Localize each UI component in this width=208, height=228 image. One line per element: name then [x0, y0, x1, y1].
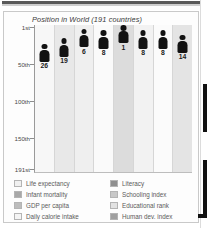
figure-head [160, 30, 166, 36]
legend-item[interactable]: Schooling index [110, 189, 200, 200]
figure-value-label: 8 [137, 49, 150, 57]
legend-swatch [14, 191, 22, 198]
legend: Life expectancyInfant mortalityGDP per c… [4, 178, 200, 222]
scrollbar-thumb-upper[interactable] [203, 84, 207, 132]
human-figure-icon: 6 [77, 29, 90, 56]
chart-column[interactable]: 8 [94, 25, 114, 172]
figure-body [119, 31, 128, 43]
chart-column[interactable]: 1 [114, 25, 134, 172]
human-figure-icon: 19 [58, 38, 71, 65]
y-axis: 1st50th100th150th191st [4, 25, 34, 173]
figure-value-label: 19 [58, 57, 71, 65]
figure-body [178, 41, 187, 53]
legend-swatch [110, 180, 118, 187]
figure-value-label: 26 [38, 62, 51, 70]
legend-label: Life expectancy [26, 180, 70, 187]
legend-swatch [14, 213, 22, 220]
legend-label: Schooling index [122, 191, 166, 198]
scrollbar-thumb-lower[interactable] [203, 160, 207, 218]
legend-column-left: Life expectancyInfant mortalityGDP per c… [4, 178, 104, 222]
legend-swatch [110, 191, 118, 198]
plot-area: 26196818814 [34, 25, 192, 173]
figure-value-label: 8 [156, 49, 169, 57]
chart-column[interactable]: 8 [154, 25, 174, 172]
human-figure-icon: 1 [117, 25, 130, 52]
figure-body [138, 37, 147, 49]
human-figure-icon: 8 [137, 30, 150, 57]
legend-label: Educational rank [122, 202, 169, 209]
figure-head [180, 35, 186, 41]
legend-item[interactable]: Literacy [110, 178, 200, 189]
figure-body [99, 37, 108, 49]
legend-item[interactable]: Life expectancy [14, 178, 104, 189]
legend-item[interactable]: Human dev. index [110, 211, 200, 222]
legend-label: GDP per capita [26, 202, 69, 209]
legend-label: Literacy [122, 180, 144, 187]
chart-column[interactable]: 6 [75, 25, 95, 172]
y-tick-label: 100th [15, 97, 30, 104]
chart-column[interactable]: 8 [134, 25, 154, 172]
y-tick-label: 191st [15, 166, 30, 173]
figure-body [158, 37, 167, 49]
figure-value-label: 6 [77, 48, 90, 56]
legend-item[interactable]: GDP per capita [14, 200, 104, 211]
window-top-divider-light [2, 4, 202, 6]
chart-column[interactable]: 19 [55, 25, 75, 172]
figure-head [81, 29, 87, 35]
figure-value-label: 1 [117, 44, 130, 52]
figure-head [101, 30, 107, 36]
y-tick-label: 50th [18, 60, 30, 67]
chart-column[interactable]: 14 [173, 25, 192, 172]
figure-body [79, 35, 88, 47]
figure-body [59, 45, 68, 57]
figure-value-label: 8 [97, 49, 110, 57]
figure-head [61, 38, 67, 44]
figure-value-label: 14 [176, 53, 189, 61]
chart-column[interactable]: 26 [35, 25, 55, 172]
legend-label: Infant mortality [26, 191, 67, 198]
human-figure-icon: 14 [176, 35, 189, 62]
chart-title: Position in World (191 countries) [32, 15, 142, 24]
plot-wrapper: 1st50th100th150th191st 26196818814 [4, 25, 200, 173]
scrollbar-corner[interactable] [198, 214, 207, 218]
human-figure-icon: 8 [97, 30, 110, 57]
legend-label: Daily calorie intake [26, 213, 79, 220]
legend-item[interactable]: Educational rank [110, 200, 200, 211]
scrollbar-separator [200, 0, 201, 228]
figure-head [140, 30, 146, 36]
figure-head [121, 25, 127, 31]
human-figure-icon: 8 [156, 30, 169, 57]
human-figure-icon: 26 [38, 44, 51, 71]
legend-swatch [14, 202, 22, 209]
legend-item[interactable]: Infant mortality [14, 189, 104, 200]
legend-swatch [110, 213, 118, 220]
figure-head [42, 44, 48, 50]
y-tick-label: 150th [15, 135, 30, 142]
legend-label: Human dev. index [122, 213, 172, 220]
legend-swatch [110, 202, 118, 209]
legend-item[interactable]: Daily calorie intake [14, 211, 104, 222]
legend-column-right: LiteracySchooling indexEducational rankH… [104, 178, 200, 222]
figure-body [40, 50, 49, 62]
y-tick-label: 1st [22, 24, 30, 31]
legend-swatch [14, 180, 22, 187]
chart-panel: Position in World (191 countries) 1st50t… [3, 11, 199, 223]
